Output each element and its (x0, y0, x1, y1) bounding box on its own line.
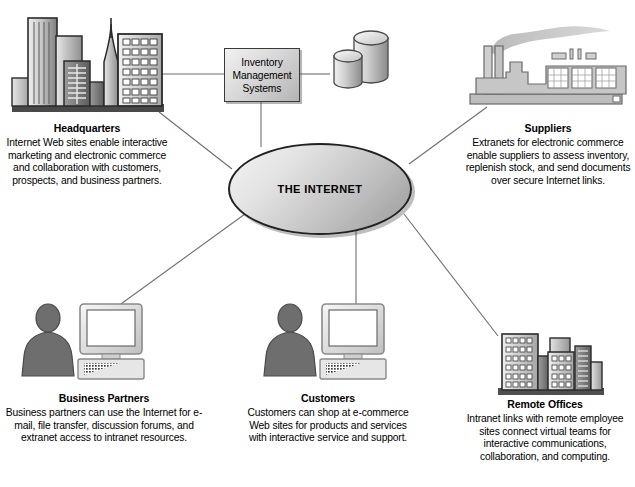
ims-label-line3: Systems (232, 82, 291, 95)
customers-title: Customers (240, 392, 416, 405)
ims-label: Inventory Management Systems (232, 56, 291, 95)
business-partners-body: Business partners can use the Internet f… (4, 407, 204, 445)
business-partners-icon-group (14, 302, 154, 382)
person-computer-icon (256, 302, 396, 382)
city-skyline-icon (8, 16, 166, 116)
headquarters-body: Internet Web sites enable interactive ma… (2, 137, 172, 187)
person-silhouette (22, 304, 74, 376)
database-icon-group (328, 28, 396, 98)
smoke-plume (490, 26, 610, 56)
suppliers-icon-group (466, 20, 626, 110)
headquarters-icon-group (8, 16, 166, 116)
the-internet-node[interactable]: THE INTERNET (228, 143, 412, 235)
headquarters-title: Headquarters (2, 122, 172, 135)
suppliers-body: Extranets for electronic commerce enable… (462, 137, 634, 187)
line-internet-to-remote-offices (404, 214, 498, 336)
customers-caption: Customers Customers can shop at e-commer… (240, 392, 416, 445)
person-silhouette (264, 304, 316, 376)
suppliers-caption: Suppliers Extranets for electronic comme… (462, 122, 634, 187)
ims-label-line2: Management (232, 69, 291, 82)
customers-body: Customers can shop at e-commerce Web sit… (240, 407, 416, 445)
inventory-management-systems-box[interactable]: Inventory Management Systems (224, 48, 300, 102)
line-internet-to-business-partners (114, 214, 245, 309)
office-buildings-icon (496, 330, 606, 398)
person-computer-icon (14, 302, 154, 382)
customers-icon-group (256, 302, 396, 382)
computer-monitor (78, 304, 144, 379)
remote-offices-body: Intranet links with remote employee site… (456, 413, 634, 463)
suppliers-title: Suppliers (462, 122, 634, 135)
remote-offices-title: Remote Offices (456, 398, 634, 411)
database-cylinder-front (334, 50, 362, 88)
factory-icon (466, 20, 626, 110)
computer-monitor (320, 304, 386, 379)
internet-architecture-diagram: Headquarters Internet Web sites enable i… (0, 0, 635, 487)
the-internet-label: THE INTERNET (278, 183, 363, 195)
remote-offices-icon-group (496, 330, 606, 398)
business-partners-caption: Business Partners Business partners can … (4, 392, 204, 445)
ims-label-line1: Inventory (232, 56, 291, 69)
database-cylinders-icon (328, 28, 396, 98)
remote-offices-caption: Remote Offices Intranet links with remot… (456, 398, 634, 463)
headquarters-caption: Headquarters Internet Web sites enable i… (2, 122, 172, 187)
business-partners-title: Business Partners (4, 392, 204, 405)
